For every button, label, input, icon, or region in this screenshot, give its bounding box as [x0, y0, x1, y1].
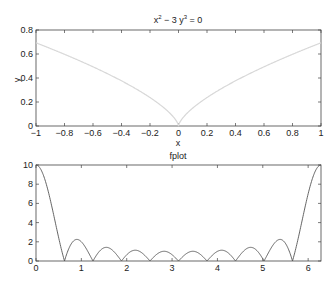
x-tick-label: −0.2 — [141, 128, 159, 138]
axes-box — [36, 165, 321, 261]
x-tick-label: 0.6 — [258, 128, 271, 138]
x-tick-label: 0 — [33, 263, 38, 273]
axes-box — [36, 30, 321, 126]
y-tick-label: 0 — [28, 256, 33, 266]
x-tick-label: 0.2 — [201, 128, 214, 138]
x-tick-label: 0.8 — [286, 128, 299, 138]
x-tick-label: 0.4 — [229, 128, 242, 138]
y-tick-label: 2 — [28, 237, 33, 247]
y-tick-label: 0.8 — [20, 25, 33, 35]
y-tick-label: 0.2 — [20, 97, 33, 107]
x-tick-label: 1 — [79, 263, 84, 273]
y-tick-label: 0 — [28, 121, 33, 131]
x-axis-label: x — [176, 138, 181, 148]
x-tick-label: 5 — [260, 263, 265, 273]
data-line — [36, 165, 321, 261]
x-tick-label: −0.8 — [56, 128, 74, 138]
x-tick-label: 6 — [306, 263, 311, 273]
y-tick-label: 6 — [28, 198, 33, 208]
y-axis-label: y — [12, 77, 22, 82]
data-line — [36, 43, 321, 126]
x-tick-label: 2 — [124, 263, 129, 273]
x-tick-label: 1 — [318, 128, 323, 138]
y-tick-label: 10 — [23, 160, 33, 170]
x-tick-label: 4 — [215, 263, 220, 273]
chart-title: fplot — [169, 151, 187, 161]
x-tick-label: 0 — [176, 128, 181, 138]
y-tick-label: 0.6 — [20, 49, 33, 59]
y-tick-label: 4 — [28, 218, 33, 228]
x-tick-label: −0.6 — [84, 128, 102, 138]
chart-title: x2 − 3 y3 = 0 — [154, 14, 203, 25]
y-tick-label: 8 — [28, 179, 33, 189]
implicit-plot-axes: −1−0.8−0.6−0.4−0.200.20.40.60.8100.20.40… — [12, 14, 324, 148]
fplot-axes: 01234560246810fplot — [23, 151, 321, 273]
x-tick-label: −0.4 — [113, 128, 131, 138]
x-tick-label: 3 — [170, 263, 175, 273]
figure: −1−0.8−0.6−0.4−0.200.20.40.60.8100.20.40… — [0, 0, 334, 289]
y-tick-label: 0.4 — [20, 73, 33, 83]
